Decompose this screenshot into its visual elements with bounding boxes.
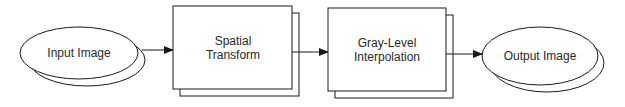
input-image-label: Input Image [47, 46, 111, 60]
spatial-transform-label-line1: Spatial [215, 34, 252, 48]
diagram-canvas: Input Image Spatial Transform Gray-Level… [0, 0, 625, 107]
node-output-image: Output Image [482, 27, 604, 92]
spatial-transform-label-line2: Transform [206, 48, 260, 62]
node-gray-level-interpolation: Gray-Level Interpolation [328, 8, 453, 98]
node-spatial-transform: Spatial Transform [173, 6, 299, 96]
node-input-image: Input Image [20, 27, 145, 86]
output-image-label: Output Image [504, 49, 577, 63]
gray-level-label-line1: Gray-Level [358, 36, 417, 50]
gray-level-label-line2: Interpolation [354, 50, 420, 64]
